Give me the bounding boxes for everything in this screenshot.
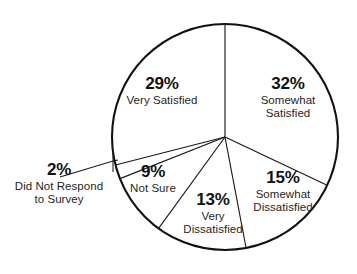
divider-did-not-respond-end (116, 137, 226, 165)
slice-desc-did-not-respond: Did Not Respond to Survey (2, 180, 116, 207)
slice-label-very-dissatisfied: 13% Very Dissatisfied (170, 190, 256, 236)
slice-label-very-satisfied: 29% Very Satisfied (116, 74, 208, 107)
slice-percent-somewhat-dissatisfied: 15% (238, 168, 328, 188)
slice-label-somewhat-satisfied: 32% Somewhat Satisfied (246, 74, 330, 120)
slice-percent-not-sure: 9% (122, 162, 184, 182)
pie-chart: 29% Very Satisfied 32% Somewhat Satisfie… (0, 0, 357, 274)
slice-label-not-sure: 9% Not Sure (122, 162, 184, 195)
slice-desc-somewhat-satisfied: Somewhat Satisfied (246, 94, 330, 121)
slice-percent-did-not-respond: 2% (2, 160, 116, 180)
slice-percent-somewhat-satisfied: 32% (246, 74, 330, 94)
slice-label-did-not-respond: 2% Did Not Respond to Survey (2, 160, 116, 206)
slice-desc-very-satisfied: Very Satisfied (116, 94, 208, 107)
slice-percent-very-satisfied: 29% (116, 74, 208, 94)
slice-desc-not-sure: Not Sure (122, 182, 184, 195)
slice-desc-very-dissatisfied: Very Dissatisfied (170, 210, 256, 237)
